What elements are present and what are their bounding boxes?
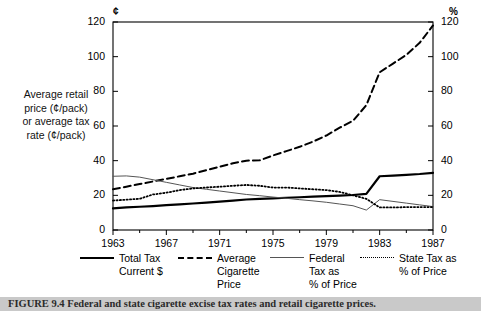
y-axis-tick-label-right: 20	[441, 188, 467, 200]
series-line	[113, 25, 433, 189]
x-axis-tick-label: 1963	[93, 237, 133, 249]
legend-label-line: Total Tax	[119, 252, 163, 265]
legend-label-line: State Tax as	[399, 252, 457, 265]
chart-legend: Total TaxCurrent $AverageCigarettePriceF…	[0, 252, 481, 300]
legend-label-line: Current $	[119, 265, 163, 278]
y-axis-tick-label-left: 100	[79, 50, 105, 62]
legend-label-line: % of Price	[309, 278, 357, 291]
legend-label: State Tax as% of Price	[399, 252, 457, 278]
legend-label-line: Tax as	[309, 265, 357, 278]
legend-label: AverageCigarettePrice	[217, 252, 260, 291]
legend-label-line: Price	[217, 278, 260, 291]
legend-item: AverageCigarettePrice	[178, 252, 260, 291]
y-axis-tick-label-right: 40	[441, 154, 467, 166]
y-axis-tick-label-right: 120	[441, 15, 467, 27]
legend-label-line: Cigarette	[217, 265, 260, 278]
legend-label-line: % of Price	[399, 265, 457, 278]
y-axis-tick-label-right: 0	[441, 223, 467, 235]
y-axis-tick-label-right: 80	[441, 84, 467, 96]
x-axis-tick-label: 1987	[413, 237, 453, 249]
y-axis-tick-label-left: 120	[79, 15, 105, 27]
y-axis-tick-label-left: 20	[79, 188, 105, 200]
y-axis-tick-label-left: 40	[79, 154, 105, 166]
legend-label: FederalTax as% of Price	[309, 252, 357, 291]
legend-label: Total TaxCurrent $	[119, 252, 163, 278]
caption-label: FIGURE 9.4	[8, 298, 65, 309]
x-axis-tick-label: 1983	[360, 237, 400, 249]
legend-swatch-icon	[360, 252, 394, 264]
x-axis-tick-label: 1971	[200, 237, 240, 249]
y-axis-tick-label-right: 100	[441, 50, 467, 62]
figure-caption: FIGURE 9.4 Federal and state cigarette e…	[8, 298, 376, 309]
y-axis-tick-label-left: 60	[79, 119, 105, 131]
x-axis-tick-label: 1975	[253, 237, 293, 249]
figure-container: Average retail price (¢/pack) or average…	[0, 0, 481, 311]
legend-swatch-icon	[80, 252, 114, 264]
legend-swatch-icon	[178, 252, 212, 264]
series-line	[113, 185, 433, 208]
caption-text: Federal and state cigarette excise tax r…	[67, 298, 376, 309]
legend-item: State Tax as% of Price	[360, 252, 457, 278]
y-axis-tick-label-left: 0	[79, 223, 105, 235]
legend-swatch-icon	[270, 252, 304, 264]
y-axis-tick-label-left: 80	[79, 84, 105, 96]
x-axis-tick-label: 1979	[306, 237, 346, 249]
x-axis-tick-label: 1967	[146, 237, 186, 249]
legend-item: FederalTax as% of Price	[270, 252, 357, 291]
caption-band: FIGURE 9.4 Federal and state cigarette e…	[0, 297, 481, 311]
legend-item: Total TaxCurrent $	[80, 252, 163, 278]
y-axis-tick-label-right: 60	[441, 119, 467, 131]
legend-label-line: Federal	[309, 252, 357, 265]
series-line	[113, 173, 433, 209]
legend-label-line: Average	[217, 252, 260, 265]
